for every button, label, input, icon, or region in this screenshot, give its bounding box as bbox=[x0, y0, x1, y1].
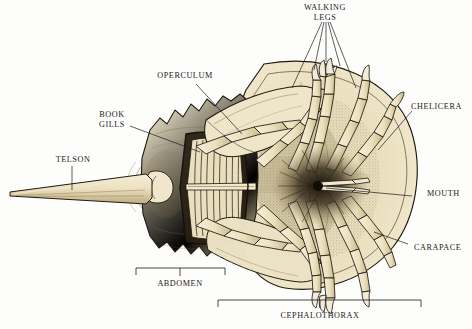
label-operculum: OPERCULUM bbox=[137, 71, 233, 81]
label-chelicera: CHELICERA bbox=[411, 102, 472, 112]
abdomen-bracket bbox=[136, 268, 225, 276]
horseshoe-crab-illustration bbox=[0, 0, 472, 329]
label-mouth: MOUTH bbox=[427, 189, 472, 199]
label-abdomen: ABDOMEN bbox=[148, 279, 212, 289]
label-cephalothorax: CEPHALOTHORAX bbox=[270, 311, 370, 321]
telson bbox=[10, 174, 152, 204]
label-carapace: CARAPACE bbox=[414, 243, 472, 253]
label-telson: TELSON bbox=[43, 155, 103, 165]
label-walking-legs: WALKING LEGS bbox=[285, 3, 365, 22]
anatomical-figure: WALKING LEGS OPERCULUM CHELICERA BOOK GI… bbox=[0, 0, 472, 329]
label-book-gills: BOOK GILLS bbox=[82, 110, 142, 129]
